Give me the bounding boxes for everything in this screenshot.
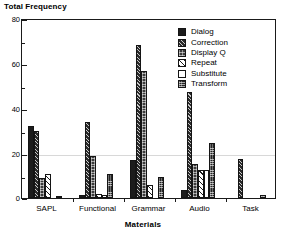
x-axis-category-label: Audio <box>189 205 209 213</box>
y-axis-tick-label: 80 <box>12 16 20 24</box>
x-axis-category-label: SAPL <box>36 205 56 213</box>
x-axis-tick <box>124 198 125 202</box>
legend-item: Substitute <box>178 69 270 79</box>
legend-swatch-icon <box>178 39 186 47</box>
y-axis-minor-tick <box>22 43 25 44</box>
legend-item-label: Correction <box>191 39 228 47</box>
x-axis-tick <box>175 198 176 202</box>
gridline <box>22 155 275 156</box>
y-axis-tick: 80 <box>22 20 27 21</box>
legend-item-label: Substitute <box>191 70 227 78</box>
y-axis-tick-label: 20 <box>12 151 20 159</box>
bar <box>45 174 51 198</box>
bar <box>260 195 266 198</box>
chart-title: Total Frequency <box>4 2 67 11</box>
bar <box>209 143 215 198</box>
bar <box>141 71 147 198</box>
y-axis-tick: 60 <box>22 65 27 66</box>
legend-item-label: Display Q <box>191 49 226 57</box>
x-axis-tick <box>226 198 227 202</box>
x-axis-title: Materials <box>0 220 286 229</box>
bar <box>56 196 62 198</box>
x-axis-category-label: Functional <box>79 205 116 213</box>
legend-swatch-icon <box>178 49 186 57</box>
legend-item: Transform <box>178 79 270 89</box>
bar-chart: Total Frequency 020406080 SAPLFunctional… <box>0 0 286 234</box>
legend-item: Repeat <box>178 58 270 68</box>
legend-swatch-icon <box>178 59 186 67</box>
bar <box>147 185 153 199</box>
legend-item-label: Repeat <box>191 59 217 67</box>
legend-item: Dialog <box>178 27 270 37</box>
y-axis-minor-tick <box>22 133 25 134</box>
bar <box>238 159 244 198</box>
bar <box>158 177 164 198</box>
y-axis-tick-label: 60 <box>12 61 20 69</box>
y-axis-tick-label: 0 <box>16 195 20 203</box>
legend-swatch-icon <box>178 70 186 78</box>
y-axis-tick-label: 40 <box>12 106 20 114</box>
y-axis-tick: 20 <box>22 155 27 156</box>
bar <box>90 156 96 198</box>
legend-swatch-icon <box>178 28 186 36</box>
x-axis-category-label: Grammar <box>132 205 166 213</box>
x-axis-category-label: Task <box>242 205 258 213</box>
legend-swatch-icon <box>178 80 186 88</box>
legend-item-label: Transform <box>191 80 227 88</box>
legend-item-label: Dialog <box>191 28 214 36</box>
y-axis-tick: 40 <box>22 110 27 111</box>
x-axis-tick <box>73 198 74 202</box>
legend-item: Correction <box>178 37 270 47</box>
y-axis-minor-tick <box>22 178 25 179</box>
bar <box>107 174 113 198</box>
y-axis-minor-tick <box>22 88 25 89</box>
y-axis-tick: 0 <box>22 199 27 200</box>
chart-legend: DialogCorrectionDisplay QRepeatSubstitut… <box>178 27 270 89</box>
legend-item: Display Q <box>178 48 270 58</box>
